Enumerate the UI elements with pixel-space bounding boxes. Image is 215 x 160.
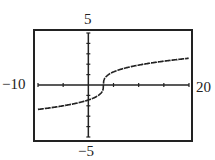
ymax-label: 5: [84, 12, 92, 27]
ymin-label: −5: [78, 144, 94, 159]
xmin-label: −10: [2, 77, 25, 92]
plot: [0, 0, 215, 160]
xmax-label: 20: [196, 80, 211, 95]
